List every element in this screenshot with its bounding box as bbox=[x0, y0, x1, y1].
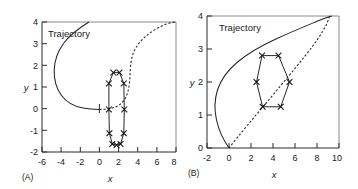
panel-a-y-axis-title: y bbox=[23, 82, 30, 93]
panel-a-y-tick-labels: -2 -1 0 1 2 3 4 bbox=[30, 17, 38, 157]
panel-b: 0 1 2 3 4 -2 0 2 4 6 8 10 y x Trajectory bbox=[179, 0, 358, 189]
y-tick-label: 2 bbox=[198, 77, 203, 87]
y-tick-label: 3 bbox=[198, 44, 203, 54]
y-tick-label: 1 bbox=[33, 82, 38, 92]
data-marker-x bbox=[109, 141, 115, 147]
y-tick-label: -2 bbox=[30, 147, 38, 157]
y-tick-label: 0 bbox=[33, 104, 38, 114]
panel-b-dashed-curve bbox=[229, 16, 330, 148]
panel-b-plot: 0 1 2 3 4 -2 0 2 4 6 8 10 y x Trajectory bbox=[179, 0, 358, 189]
data-marker-x bbox=[287, 79, 293, 85]
panel-a-x-axis-title: x bbox=[107, 173, 114, 184]
y-tick-label: -1 bbox=[30, 126, 38, 136]
panel-b-y-ticks bbox=[207, 16, 212, 148]
y-tick-label: 4 bbox=[198, 11, 203, 21]
y-tick-label: 2 bbox=[33, 61, 38, 71]
x-tick-label: 0 bbox=[97, 157, 102, 167]
panel-a-plot: -2 -1 0 1 2 3 4 -6 -4 -2 0 2 4 6 8 y x bbox=[0, 0, 179, 189]
x-tick-label: -6 bbox=[38, 157, 46, 167]
y-tick-label: 3 bbox=[33, 39, 38, 49]
panel-b-trajectory-label: Trajectory bbox=[219, 22, 261, 33]
panel-a-markers bbox=[106, 70, 127, 148]
y-tick-label: 4 bbox=[33, 17, 38, 27]
x-tick-label: -2 bbox=[203, 153, 211, 163]
panel-b-x-axis-title: x bbox=[271, 169, 278, 180]
figure-container: -2 -1 0 1 2 3 4 -6 -4 -2 0 2 4 6 8 y x bbox=[0, 0, 358, 189]
panel-b-solid-curve bbox=[215, 16, 332, 148]
x-tick-label: 8 bbox=[171, 157, 176, 167]
panel-a-x-ticks bbox=[42, 147, 176, 152]
x-tick-label: -4 bbox=[57, 157, 65, 167]
panel-a-marker-loop-path bbox=[109, 73, 124, 146]
y-tick-label: 0 bbox=[198, 143, 203, 153]
x-tick-label: -2 bbox=[76, 157, 84, 167]
x-tick-label: 2 bbox=[248, 153, 253, 163]
panel-b-markers bbox=[254, 53, 293, 110]
panel-b-axes bbox=[207, 16, 339, 148]
x-tick-label: 4 bbox=[270, 153, 275, 163]
x-tick-label: 4 bbox=[135, 157, 140, 167]
panel-a: -2 -1 0 1 2 3 4 -6 -4 -2 0 2 4 6 8 y x bbox=[0, 0, 179, 189]
panel-a-label: (A) bbox=[22, 172, 34, 182]
data-marker-x bbox=[114, 142, 120, 148]
panel-a-y-ticks bbox=[42, 22, 47, 152]
x-tick-label: 6 bbox=[154, 157, 159, 167]
x-tick-label: 8 bbox=[314, 153, 319, 163]
x-tick-label: 2 bbox=[116, 157, 121, 167]
x-tick-label: 10 bbox=[332, 153, 342, 163]
y-tick-label: 1 bbox=[198, 110, 203, 120]
data-marker-x bbox=[118, 141, 124, 147]
panel-b-x-tick-labels: -2 0 2 4 6 8 10 bbox=[203, 153, 342, 163]
panel-b-y-axis-title: y bbox=[189, 77, 196, 88]
panel-a-x-tick-labels: -6 -4 -2 0 2 4 6 8 bbox=[38, 157, 177, 167]
panel-b-y-tick-labels: 0 1 2 3 4 bbox=[198, 11, 203, 153]
panel-b-label: (B) bbox=[188, 168, 200, 178]
x-tick-label: 0 bbox=[226, 153, 231, 163]
panel-a-dashed-curve bbox=[99, 22, 176, 109]
x-tick-label: 6 bbox=[292, 153, 297, 163]
